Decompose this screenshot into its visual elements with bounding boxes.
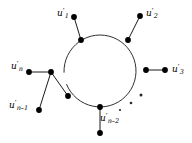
graph-vertex xyxy=(48,69,54,75)
vertex-label-u3: u′3 xyxy=(172,65,184,74)
graph-vertex xyxy=(97,104,103,110)
label-base: u xyxy=(11,61,17,71)
label-base: u xyxy=(57,8,63,18)
node-layer xyxy=(26,13,168,136)
label-subscript: 3 xyxy=(180,68,184,76)
graph-vertex xyxy=(137,13,143,19)
graph-edge xyxy=(51,72,68,96)
label-subscript: n–1 xyxy=(17,104,29,112)
edge-layer xyxy=(29,16,165,133)
graph-edge xyxy=(128,16,140,40)
graph-vertex xyxy=(65,93,71,99)
graph-vertex xyxy=(36,107,42,113)
graph-vertex xyxy=(97,130,103,136)
ellipsis-dots xyxy=(119,94,143,112)
graph-vertex xyxy=(71,14,77,20)
label-subscript: n xyxy=(19,65,23,73)
label-subscript: 2 xyxy=(154,12,158,20)
graph-vertex xyxy=(78,37,84,43)
label-base: u xyxy=(172,64,178,74)
graph-vertex xyxy=(125,37,131,43)
label-subscript: n–2 xyxy=(108,117,120,125)
graph-edge xyxy=(39,72,51,110)
vertex-label-un: u′n xyxy=(11,62,23,71)
vertex-label-u2: u′2 xyxy=(146,9,158,18)
label-base: u xyxy=(100,113,106,123)
ellipsis-dot xyxy=(130,102,133,105)
label-base: u xyxy=(9,100,15,110)
graph-figure: u′1 u′2 u′3 u′n u′n–1 u′n–2 xyxy=(0,0,192,143)
label-subscript: 1 xyxy=(65,12,69,20)
graph-vertex xyxy=(26,69,32,75)
ellipsis-dot xyxy=(140,94,143,97)
vertex-label-un-minus-2: u′n–2 xyxy=(100,114,119,123)
vertex-label-u1: u′1 xyxy=(57,9,69,18)
graph-canvas xyxy=(0,0,192,143)
vertex-label-un-minus-1: u′n–1 xyxy=(9,101,28,110)
graph-edge xyxy=(74,17,81,40)
graph-vertex xyxy=(162,67,168,73)
ellipsis-dot xyxy=(119,109,121,111)
graph-vertex xyxy=(143,67,149,73)
cycle-arc xyxy=(64,35,136,107)
label-base: u xyxy=(146,8,152,18)
